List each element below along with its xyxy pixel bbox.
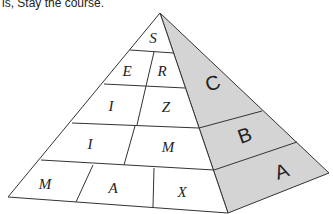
cell-row2-1: E [121,63,131,79]
cell-row5-3: X [176,184,187,200]
pyramid-diagram: S E R I Z I M M A X C B A [0,0,333,214]
cell-row5-1: M [38,176,53,192]
cell-row4-2: M [161,139,176,155]
cell-row3-1: I [108,98,115,114]
cell-row2-2: R [156,63,166,79]
cell-row4-1: I [87,136,94,152]
cell-row1-1: S [149,30,157,46]
cell-row5-2: A [107,180,118,196]
cell-row3-2: Z [162,99,171,115]
